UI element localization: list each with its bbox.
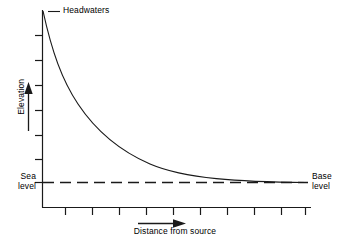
y-axis-ticks [35, 36, 42, 183]
river-profile-chart: Headwaters Sealevel Baselevel Elevation … [0, 0, 346, 242]
x-axis-label: Distance from source [110, 227, 240, 237]
annotation-sea-level: Sealevel [2, 172, 36, 191]
y-axis-label: Elevation [17, 71, 27, 123]
chart-canvas [0, 0, 346, 242]
sea-level-line-1: Sea [21, 171, 36, 181]
base-level-line-1: Base [312, 171, 332, 181]
annotation-headwaters: Headwaters [63, 6, 109, 16]
sea-level-line-2: level [18, 181, 36, 191]
x-axis-ticks [66, 207, 306, 215]
river-profile-curve [43, 11, 306, 183]
base-level-line-2: level [312, 181, 330, 191]
annotation-base-level: Baselevel [312, 172, 346, 191]
